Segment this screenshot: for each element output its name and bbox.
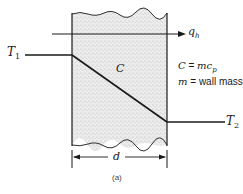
label-t2: T2 bbox=[226, 114, 239, 130]
wall-diagram bbox=[0, 0, 243, 194]
label-qh: qh bbox=[188, 25, 200, 40]
mass-definition: m = wall mass bbox=[178, 76, 243, 87]
label-capacitance: C bbox=[116, 62, 124, 75]
capacitance-definition: C = mcp bbox=[178, 60, 217, 74]
wall bbox=[72, 8, 167, 151]
label-thickness-d: d bbox=[113, 150, 120, 163]
figure-caption: (a) bbox=[112, 173, 122, 182]
label-t1: T1 bbox=[7, 45, 20, 61]
